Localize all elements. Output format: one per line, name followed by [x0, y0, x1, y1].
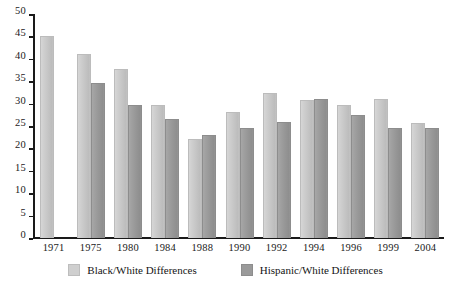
x-axis-label: 1994 [295, 243, 332, 254]
y-axis-tick-mark [29, 148, 33, 150]
y-axis-tick-label: 40 [15, 51, 26, 62]
x-axis-label: 1996 [332, 243, 369, 254]
y-axis-tick-mark [29, 36, 33, 38]
bar-group [151, 14, 179, 238]
legend-item[interactable]: Hispanic/White Differences [241, 264, 383, 276]
bar [77, 54, 91, 238]
y-axis-tick-label: 15 [15, 163, 26, 174]
bar [165, 119, 179, 238]
bar-group [263, 14, 291, 238]
y-axis-tick-mark [29, 193, 33, 195]
y-axis-tick-mark [29, 81, 33, 83]
x-axis-label: 1984 [147, 243, 184, 254]
legend-swatch [68, 264, 80, 276]
legend-label: Black/White Differences [87, 265, 196, 276]
bar [337, 105, 351, 238]
y-axis-tick-mark [29, 126, 33, 128]
bar [374, 99, 388, 238]
bar-group [40, 14, 68, 238]
bar [128, 105, 142, 238]
legend-item[interactable]: Black/White Differences [68, 264, 196, 276]
y-axis-tick-label: 25 [15, 118, 26, 129]
bar [188, 139, 202, 238]
chart-legend: Black/White DifferencesHispanic/White Di… [0, 264, 451, 276]
bar [300, 100, 314, 238]
bar-chart: 50454035302520151050 1971197519801984198… [0, 0, 451, 283]
x-axis-label: 1992 [258, 243, 295, 254]
bar [91, 83, 105, 238]
bar-group [77, 14, 105, 238]
bar [114, 69, 128, 238]
y-axis-tick-label: 35 [15, 73, 26, 84]
y-axis-tick-label: 20 [15, 140, 26, 151]
y-axis-tick-label: 30 [15, 96, 26, 107]
x-axis-label: 1980 [109, 243, 146, 254]
y-axis-tick-mark [29, 104, 33, 106]
y-axis-tick-label: 0 [21, 230, 26, 241]
bar [151, 105, 165, 238]
bar [314, 99, 328, 238]
y-axis-tick-label: 5 [21, 208, 26, 219]
bar [240, 128, 254, 238]
bar [277, 122, 291, 238]
x-axis-label: 1990 [221, 243, 258, 254]
bar-group [374, 14, 402, 238]
y-axis-tick-mark [29, 171, 33, 173]
legend-label: Hispanic/White Differences [260, 265, 383, 276]
x-axis-label: 2004 [407, 243, 444, 254]
bar [226, 112, 240, 238]
bar-group [114, 14, 142, 238]
bar [263, 93, 277, 238]
bar [411, 123, 425, 238]
y-axis-tick-mark [29, 14, 33, 16]
y-axis-tick-label: 50 [15, 6, 26, 17]
y-axis-tick-mark [29, 59, 33, 61]
bar [202, 135, 216, 238]
x-axis-label: 1988 [184, 243, 221, 254]
legend-swatch [241, 264, 253, 276]
y-axis-tick-label: 45 [15, 28, 26, 39]
bar-group [188, 14, 216, 238]
y-axis-tick-mark [29, 238, 33, 240]
bar-group [226, 14, 254, 238]
bar [388, 128, 402, 238]
bars-layer [35, 14, 444, 238]
bar [351, 115, 365, 238]
bar-group [337, 14, 365, 238]
x-axis-labels: 1971197519801984198819901992199419961999… [35, 243, 444, 259]
y-axis-tick-mark [29, 216, 33, 218]
bar [425, 128, 439, 238]
y-axis-tick-label: 10 [15, 185, 26, 196]
bar-group [300, 14, 328, 238]
bar-group [411, 14, 439, 238]
x-axis-label: 1971 [35, 243, 72, 254]
bar [40, 36, 54, 238]
x-axis-label: 1975 [72, 243, 109, 254]
x-axis-label: 1999 [370, 243, 407, 254]
